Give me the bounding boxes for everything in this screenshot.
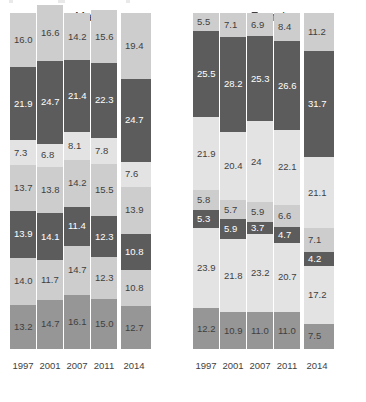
segment-value-label: 11.2 bbox=[308, 27, 326, 37]
bar-segment: 24.7 bbox=[121, 79, 151, 162]
segment-value-label: 4.2 bbox=[308, 254, 321, 264]
segment-value-label: 7.3 bbox=[14, 148, 27, 158]
plot-area-females: 5.525.521.95.85.323.912.219977.128.220.4… bbox=[183, 26, 366, 376]
bar-segment: 5.5 bbox=[193, 13, 219, 31]
segment-value-label: 16.1 bbox=[68, 317, 87, 327]
bar-segment: 23.9 bbox=[193, 228, 219, 308]
bar-segment: 15.0 bbox=[91, 299, 117, 349]
stacked-bar-females-1997: 5.525.521.95.85.323.912.2 bbox=[193, 13, 219, 349]
segment-value-label: 5.8 bbox=[197, 195, 210, 205]
bar-segment: 5.9 bbox=[247, 202, 273, 222]
segment-value-label: 5.9 bbox=[224, 225, 237, 235]
x-axis-tick-2014: 2014 bbox=[299, 360, 335, 371]
segment-value-label: 22.1 bbox=[278, 163, 297, 173]
bar-segment: 10.8 bbox=[121, 270, 151, 306]
segment-value-label: 31.7 bbox=[308, 99, 327, 109]
segment-value-label: 11.7 bbox=[41, 275, 59, 285]
segment-value-label: 12.3 bbox=[95, 273, 114, 283]
segment-value-label: 16.6 bbox=[41, 28, 60, 38]
segment-value-label: 6.8 bbox=[41, 150, 54, 160]
bar-segment: 14.7 bbox=[64, 246, 90, 295]
segment-value-label: 14.0 bbox=[14, 276, 33, 286]
bar-segment: 14.7 bbox=[37, 300, 63, 349]
bar-segment: 21.4 bbox=[64, 60, 90, 132]
bar-segment: 11.4 bbox=[64, 207, 90, 245]
bar-segment: 4.7 bbox=[274, 227, 300, 243]
segment-value-label: 15.5 bbox=[95, 185, 114, 195]
segment-value-label: 14.1 bbox=[41, 232, 60, 242]
plot-area-males: 16.021.97.313.713.914.013.2199716.624.76… bbox=[0, 26, 183, 376]
chart-panel-males: Males 16.021.97.313.713.914.013.2199716.… bbox=[0, 0, 183, 402]
segment-value-label: 21.1 bbox=[308, 188, 327, 198]
bar-segment: 8.4 bbox=[274, 13, 300, 41]
bar-segment: 16.0 bbox=[10, 13, 36, 67]
segment-value-label: 13.2 bbox=[14, 322, 33, 332]
bar-segment: 14.2 bbox=[64, 160, 90, 208]
bar-segment: 28.2 bbox=[220, 37, 246, 132]
bar-segment: 13.7 bbox=[10, 165, 36, 211]
segment-value-label: 12.3 bbox=[95, 232, 114, 242]
bar-segment: 7.6 bbox=[121, 162, 151, 188]
bar-segment: 11.0 bbox=[274, 312, 300, 349]
segment-value-label: 10.9 bbox=[224, 326, 243, 336]
bar-segment: 11.2 bbox=[304, 13, 334, 51]
bar-segment: 21.1 bbox=[304, 157, 334, 228]
bar-segment: 23.2 bbox=[247, 234, 273, 312]
segment-value-label: 7.6 bbox=[125, 170, 138, 180]
segment-value-label: 8.1 bbox=[68, 141, 81, 151]
bar-segment: 3.7 bbox=[247, 222, 273, 234]
bar-segment: 7.3 bbox=[10, 140, 36, 165]
segment-value-label: 5.3 bbox=[197, 214, 210, 224]
bar-segment: 25.5 bbox=[193, 31, 219, 117]
segment-value-label: 12.7 bbox=[125, 323, 144, 333]
bar-segment: 6.8 bbox=[37, 144, 63, 167]
stacked-bar-females-2014: 11.231.721.17.14.217.27.5 bbox=[304, 13, 334, 349]
segment-value-label: 21.4 bbox=[68, 92, 87, 102]
bar-segment: 6.9 bbox=[247, 13, 273, 36]
bar-segment: 25.3 bbox=[247, 36, 273, 121]
stacked-bar-females-2011: 8.426.622.16.64.720.711.0 bbox=[274, 13, 300, 349]
bar-segment: 26.6 bbox=[274, 41, 300, 130]
segment-value-label: 5.9 bbox=[251, 207, 264, 217]
bar-segment: 21.9 bbox=[10, 67, 36, 141]
bar-segment: 7.8 bbox=[91, 138, 117, 164]
segment-value-label: 14.7 bbox=[41, 320, 60, 330]
stacked-bar-males-1997: 16.021.97.313.713.914.013.2 bbox=[10, 13, 36, 349]
segment-value-label: 13.7 bbox=[14, 183, 33, 193]
segment-value-label: 16.0 bbox=[14, 35, 33, 45]
bar-segment: 24.7 bbox=[37, 61, 63, 144]
segment-value-label: 21.8 bbox=[224, 271, 243, 281]
segment-value-label: 3.7 bbox=[251, 223, 264, 233]
segment-value-label: 26.6 bbox=[278, 81, 297, 91]
bar-segment: 7.1 bbox=[220, 13, 246, 37]
bar-segment: 13.9 bbox=[121, 187, 151, 234]
bar-segment: 13.9 bbox=[10, 211, 36, 258]
bar-segment: 20.7 bbox=[274, 243, 300, 313]
segment-value-label: 4.7 bbox=[278, 230, 291, 240]
segment-value-label: 13.9 bbox=[14, 230, 33, 240]
bar-segment: 22.1 bbox=[274, 130, 300, 204]
bar-segment: 11.7 bbox=[37, 260, 63, 299]
segment-value-label: 17.2 bbox=[308, 290, 327, 300]
stacked-bar-males-2001: 16.624.76.813.814.111.714.7 bbox=[37, 5, 63, 349]
segment-value-label: 8.4 bbox=[278, 22, 291, 32]
segment-value-label: 7.5 bbox=[308, 332, 321, 342]
segment-value-label: 5.7 bbox=[224, 205, 237, 215]
bar-segment: 31.7 bbox=[304, 51, 334, 158]
segment-value-label: 11.0 bbox=[251, 326, 269, 336]
segment-value-label: 20.4 bbox=[224, 161, 243, 171]
segment-value-label: 24 bbox=[251, 157, 262, 167]
segment-value-label: 14.2 bbox=[68, 32, 87, 42]
bar-segment: 15.5 bbox=[91, 164, 117, 216]
bar-segment: 8.1 bbox=[64, 132, 90, 159]
segment-value-label: 15.6 bbox=[95, 32, 114, 42]
segment-value-label: 24.7 bbox=[41, 97, 60, 107]
bar-segment: 10.9 bbox=[220, 312, 246, 349]
bar-segment: 15.6 bbox=[91, 10, 117, 62]
segment-value-label: 5.5 bbox=[197, 17, 210, 27]
segment-value-label: 10.8 bbox=[125, 283, 144, 293]
bar-segment: 5.7 bbox=[220, 200, 246, 219]
bar-segment: 11.0 bbox=[247, 312, 273, 349]
stacked-bar-males-2007: 14.221.48.114.211.414.716.1 bbox=[64, 13, 90, 349]
bar-segment: 14.0 bbox=[10, 258, 36, 305]
